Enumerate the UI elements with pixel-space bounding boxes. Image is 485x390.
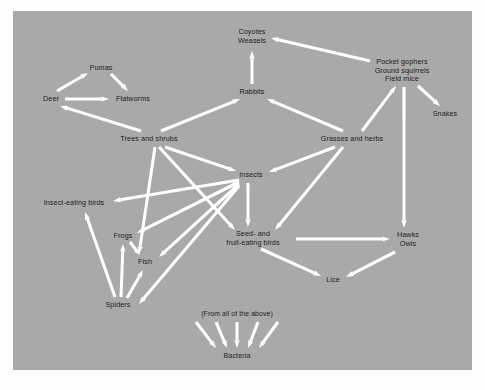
node-spiders: Spiders [105,301,130,310]
node-label-line: Lice [326,276,340,285]
edge-seed_birds-to-hawks [296,236,390,241]
edge-spiders-to-insect_birds [85,212,116,298]
edge-trees-to-deer [60,106,141,133]
edge-trees-to-fish [138,147,157,254]
diagram-panel: PumasDeerFlatwormsCoyotesWeaselsRabbitsP… [13,11,472,370]
node-snakes: Snakes [433,110,458,119]
edge-insects-to-spiders [139,185,240,304]
node-label-line: fruit-eating birds [226,239,279,248]
edge-from_above-to-bacteria [195,321,216,348]
node-label-line: Weasels [238,37,266,46]
node-label-line: Pumas [90,64,113,73]
edge-grasses-to-seed_birds [275,146,344,230]
node-label-line: Spiders [105,301,130,310]
node-label-line: Insects [239,171,262,180]
edge-trees-to-insects [165,146,236,172]
edge-spiders-to-frogs [119,244,125,297]
edge-trees-to-seed_birds [158,146,235,230]
node-grasses: Grasses and herbs [321,135,383,144]
food-web-diagram: PumasDeerFlatwormsCoyotesWeaselsRabbitsP… [0,0,485,390]
edge-grasses-to-insects [269,146,336,172]
edge-hawks-to-lice [346,251,396,277]
edge-grasses-to-rodents [361,86,396,132]
edge-spiders-to-fish [126,270,143,299]
edge-from_above-to-bacteria [248,321,259,348]
node-label-line: Owls [397,240,419,249]
edge-trees-to-rabbits [160,99,240,132]
node-label-line: Rabbits [239,88,264,97]
node-label-line: (From all of the above) [201,310,273,319]
edge-seed_birds-to-lice [260,248,321,276]
edge-pumas-to-flatworms [110,73,128,91]
node-hawks: HawksOwls [397,231,419,248]
edge-insects-to-seed_birds [245,183,250,227]
node-flatworms: Flatworms [116,95,150,104]
node-label-line: Field mice [375,75,430,84]
edge-insects-to-frogs [137,181,240,233]
node-from_above: (From all of the above) [201,310,273,319]
node-deer: Deer [43,95,59,104]
node-coyotes: CoyotesWeasels [238,28,266,45]
node-lice: Lice [326,276,340,285]
node-label-line: Insect-eating birds [44,199,105,208]
edge-from_above-to-bacteria [215,321,227,348]
node-label-line: Deer [43,95,59,104]
node-label-line: Fish [138,258,152,267]
node-pumas: Pumas [90,64,113,73]
node-bacteria: Bacteria [223,352,250,361]
node-seed_birds: Seed- andfruit-eating birds [226,230,279,247]
node-label-line: Bacteria [223,352,250,361]
node-label-line: Snakes [433,110,458,119]
edge-deer-to-flatworms [65,96,109,101]
node-insect_birds: Insect-eating birds [44,199,105,208]
node-trees: Trees and shrubs [120,135,177,144]
node-rodents: Pocket gophersGround squirrelsField mice [375,58,430,84]
edge-rabbits-to-coyotes [249,51,254,84]
node-frogs: Frogs [114,232,133,241]
node-rabbits: Rabbits [239,88,264,97]
node-fish: Fish [138,258,152,267]
node-label-line: Grasses and herbs [321,135,383,144]
edge-insects-to-insect_birds [113,178,239,202]
node-insects: Insects [239,171,262,180]
edge-deer-to-pumas [56,73,88,92]
node-label-line: Trees and shrubs [120,135,177,144]
edge-from_above-to-bacteria [234,322,239,348]
edge-grasses-to-rabbits [267,99,344,132]
node-label-line: Frogs [114,232,133,241]
edge-from_above-to-bacteria [259,321,279,348]
edge-rodents-to-snakes [417,85,440,106]
node-label-line: Flatworms [116,95,150,104]
edge-rodents-to-coyotes [271,37,370,62]
edge-rodents-to-hawks [401,87,406,228]
edge-frogs-to-fish [129,241,140,255]
